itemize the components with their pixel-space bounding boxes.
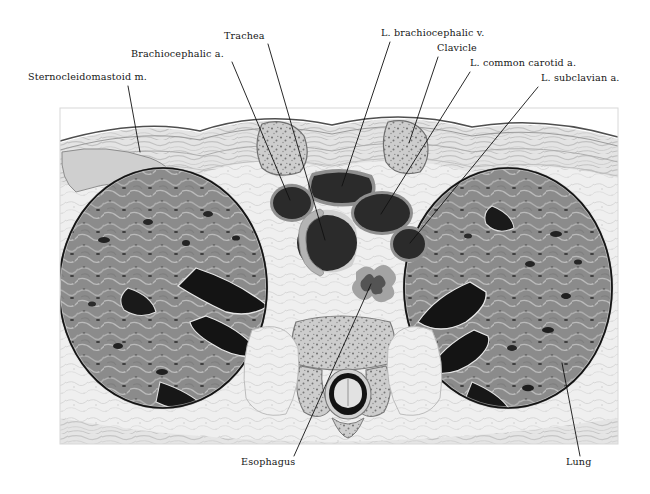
cross-section-panel — [59, 108, 618, 444]
label-left-subclavian-artery: L. subclavian a. — [541, 72, 619, 83]
label-left-brachiocephalic-vein: L. brachiocephalic v. — [381, 27, 484, 38]
anatomy-figure-svg: Sternocleidomastoid m. Brachiocephalic a… — [0, 0, 650, 494]
small-vessel — [156, 369, 168, 375]
small-vessel — [542, 327, 554, 333]
small-vessel — [113, 343, 123, 349]
label-clavicle: Clavicle — [437, 42, 477, 53]
small-vessel — [203, 211, 213, 217]
small-vessel — [232, 235, 240, 240]
label-esophagus: Esophagus — [241, 456, 295, 467]
small-vessel — [88, 302, 96, 307]
small-vessel — [182, 240, 190, 246]
l-subclavian-artery-lumen — [393, 229, 425, 259]
label-sternocleidomastoid: Sternocleidomastoid m. — [28, 71, 147, 82]
esophagus-structure — [352, 265, 396, 302]
small-vessel — [507, 345, 517, 351]
small-vessel — [98, 237, 110, 243]
label-trachea: Trachea — [224, 30, 265, 41]
label-brachiocephalic-artery: Brachiocephalic a. — [131, 48, 224, 59]
small-vessel — [561, 293, 571, 299]
small-vessel — [143, 219, 153, 225]
right-lung-structure — [59, 168, 268, 410]
label-left-common-carotid-artery: L. common carotid a. — [470, 57, 576, 68]
small-vessel — [525, 261, 535, 267]
paravertebral-tissue-right — [244, 327, 299, 416]
small-vessel — [550, 231, 562, 237]
anatomy-plate: Sternocleidomastoid m. Brachiocephalic a… — [0, 0, 650, 494]
label-lung: Lung — [566, 456, 591, 467]
trachea-structure — [297, 209, 357, 276]
paravertebral-tissue-left — [387, 327, 442, 416]
small-vessel — [464, 234, 472, 239]
small-vessel — [522, 385, 534, 391]
brachiocephalic-artery-lumen — [273, 187, 311, 219]
small-vessel — [574, 259, 582, 264]
vertebral-body — [292, 316, 395, 370]
